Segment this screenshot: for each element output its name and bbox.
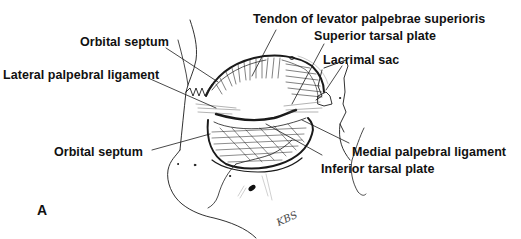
leader-orbital-septum-upper bbox=[166, 48, 218, 82]
label-superior-tarsal-plate: Superior tarsal plate bbox=[314, 30, 436, 43]
lower-eyelid bbox=[208, 118, 313, 172]
label-tendon-levator: Tendon of levator palpebrae superioris bbox=[253, 13, 485, 26]
upper-eyelid bbox=[206, 56, 328, 98]
leader-lateral-ligament bbox=[148, 78, 216, 108]
palpebral-fissure bbox=[216, 110, 296, 120]
label-orbital-septum-upper: Orbital septum bbox=[80, 36, 169, 49]
label-lateral-palpebral-ligament: Lateral palpebral ligament bbox=[3, 69, 159, 82]
nasal-bone-outline bbox=[316, 60, 350, 160]
label-inferior-tarsal-plate: Inferior tarsal plate bbox=[321, 163, 435, 176]
label-orbital-septum-lower: Orbital septum bbox=[54, 146, 143, 159]
label-medial-palpebral-ligament: Medial palpebral ligament bbox=[352, 146, 506, 159]
leader-lacrimal bbox=[326, 66, 342, 90]
leader-tendon bbox=[252, 30, 276, 76]
palpebral-ligament-streaks bbox=[196, 102, 322, 114]
label-lacrimal-sac: Lacrimal sac bbox=[323, 54, 399, 67]
eyelid-anatomy-drawing bbox=[0, 0, 521, 239]
panel-label: A bbox=[37, 203, 47, 217]
lacrimal-sac-shape bbox=[318, 92, 332, 106]
